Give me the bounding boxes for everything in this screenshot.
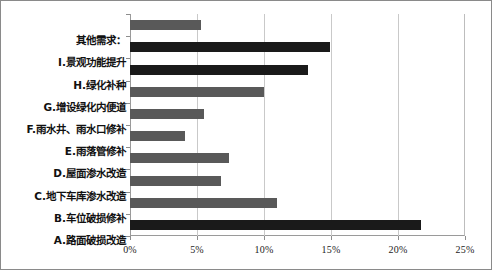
x-tick-mark <box>398 236 399 240</box>
y-tick-mark <box>126 58 130 59</box>
bar <box>130 20 201 30</box>
x-tick-mark <box>130 236 131 240</box>
bar <box>130 176 221 186</box>
category-label: F.雨水井、雨水口修补 <box>0 121 126 136</box>
y-tick-mark <box>126 81 130 82</box>
gridline <box>398 14 399 236</box>
x-tick-mark <box>264 236 265 240</box>
x-tick-label: 25% <box>445 244 485 255</box>
bar <box>130 220 421 230</box>
y-tick-mark <box>126 125 130 126</box>
chart-figure: 0%5%10%15%20%25% 其他需求：I.景观功能提升H.绿化补种G.增设… <box>0 0 493 271</box>
y-tick-mark <box>126 214 130 215</box>
y-tick-mark <box>126 36 130 37</box>
y-tick-mark <box>126 169 130 170</box>
category-label: I.景观功能提升 <box>0 54 126 69</box>
category-label: E.雨落管修补 <box>0 143 126 158</box>
x-tick-mark <box>465 236 466 240</box>
y-tick-mark <box>126 147 130 148</box>
bar <box>130 42 330 52</box>
x-tick-mark <box>331 236 332 240</box>
x-tick-mark <box>197 236 198 240</box>
category-label: C.地下车库渗水改造 <box>0 188 126 203</box>
bar <box>130 131 185 141</box>
category-label: D.屋面渗水改造 <box>0 165 126 180</box>
x-tick-label: 10% <box>244 244 284 255</box>
category-label: G.增设绿化内便道 <box>0 99 126 114</box>
category-label: H.绿化补种 <box>0 77 126 92</box>
category-label: A.路面破损改造 <box>0 232 126 247</box>
category-label: B.车位破损修补 <box>0 210 126 225</box>
bar <box>130 87 264 97</box>
category-labels: 其他需求：I.景观功能提升H.绿化补种G.增设绿化内便道F.雨水井、雨水口修补E… <box>0 28 126 250</box>
plot-area: 0%5%10%15%20%25% 其他需求：I.景观功能提升H.绿化补种G.增设… <box>130 14 465 236</box>
bar <box>130 198 277 208</box>
bar <box>130 109 204 119</box>
y-tick-mark <box>126 14 130 15</box>
y-tick-mark <box>126 236 130 237</box>
y-tick-mark <box>126 192 130 193</box>
gridline <box>331 14 332 236</box>
bar <box>130 65 308 75</box>
category-label: 其他需求： <box>0 32 126 47</box>
x-tick-label: 20% <box>378 244 418 255</box>
x-tick-label: 15% <box>311 244 351 255</box>
bar <box>130 153 229 163</box>
y-tick-mark <box>126 103 130 104</box>
x-tick-label: 5% <box>177 244 217 255</box>
